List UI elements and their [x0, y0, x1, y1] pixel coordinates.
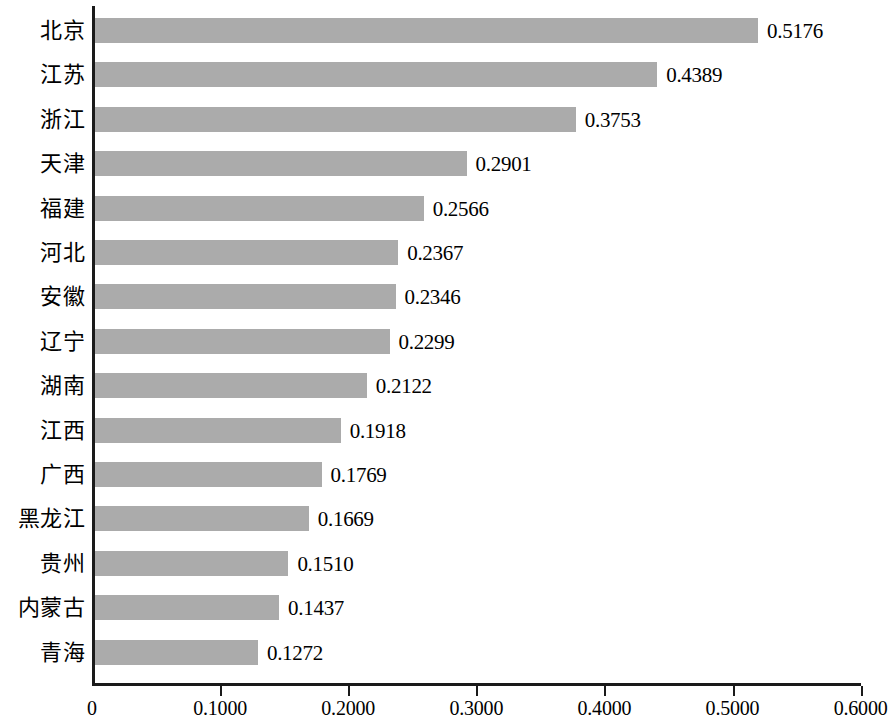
bar-row: 北京0.5176 — [0, 18, 891, 62]
bar — [95, 240, 398, 265]
category-label: 广西 — [0, 462, 85, 487]
bar-value-label: 0.1918 — [350, 419, 406, 443]
x-axis-tick-label: 0.6000 — [834, 697, 888, 719]
bar-row: 福建0.2566 — [0, 196, 891, 240]
bar-value-label: 0.2122 — [376, 374, 432, 398]
x-axis-tick-mark — [348, 686, 350, 696]
bar-row: 广西0.1769 — [0, 462, 891, 506]
bar-value-label: 0.1272 — [267, 641, 323, 665]
bar-row: 江西0.1918 — [0, 418, 891, 462]
category-label: 安徽 — [0, 284, 85, 309]
bar-value-label: 0.4389 — [666, 63, 722, 87]
bar-value-label: 0.2367 — [407, 241, 463, 265]
bar-row: 辽宁0.2299 — [0, 329, 891, 373]
bar — [95, 107, 576, 132]
bar-value-label: 0.1769 — [331, 463, 387, 487]
x-axis-tick-label: 0.4000 — [577, 697, 631, 719]
bar-chart: 北京0.5176江苏0.4389浙江0.3753天津0.2901福建0.2566… — [0, 0, 891, 723]
category-label: 辽宁 — [0, 329, 85, 354]
bar — [95, 551, 288, 576]
bar-value-label: 0.1669 — [318, 507, 374, 531]
x-axis-tick-label: 0.1000 — [193, 697, 247, 719]
bar — [95, 462, 322, 487]
bar-row: 江苏0.4389 — [0, 62, 891, 106]
bar-row: 贵州0.1510 — [0, 551, 891, 595]
category-label: 江苏 — [0, 62, 85, 87]
bar-row: 黑龙江0.1669 — [0, 506, 891, 550]
bar-value-label: 0.2566 — [433, 197, 489, 221]
bar — [95, 18, 758, 43]
bar-row: 青海0.1272 — [0, 640, 891, 684]
bar-value-label: 0.1437 — [288, 596, 344, 620]
x-axis-tick-mark — [733, 686, 735, 696]
bar-value-label: 0.2901 — [476, 152, 532, 176]
x-axis-tick-label: 0.3000 — [449, 697, 503, 719]
bar-value-label: 0.2299 — [399, 330, 455, 354]
category-label: 江西 — [0, 418, 85, 443]
x-axis-tick-mark — [604, 686, 606, 696]
bar-value-label: 0.3753 — [585, 108, 641, 132]
bar — [95, 196, 424, 221]
bar — [95, 151, 467, 176]
category-label: 河北 — [0, 240, 85, 265]
category-label: 贵州 — [0, 551, 85, 576]
bar-row: 安徽0.2346 — [0, 284, 891, 328]
category-label: 福建 — [0, 196, 85, 221]
category-label: 天津 — [0, 151, 85, 176]
x-axis-tick-mark — [861, 686, 863, 696]
bar-row: 河北0.2367 — [0, 240, 891, 284]
bar — [95, 418, 341, 443]
x-axis-tick-mark — [220, 686, 222, 696]
bar — [95, 640, 258, 665]
x-axis-tick-label: 0 — [87, 697, 97, 719]
x-axis-tick-label: 0.2000 — [321, 697, 375, 719]
category-label: 浙江 — [0, 107, 85, 132]
bar-row: 内蒙古0.1437 — [0, 595, 891, 639]
bar-value-label: 0.5176 — [767, 19, 823, 43]
bar — [95, 329, 390, 354]
bar — [95, 284, 396, 309]
plot-area: 北京0.5176江苏0.4389浙江0.3753天津0.2901福建0.2566… — [0, 0, 891, 723]
x-axis-tick-label: 0.5000 — [706, 697, 760, 719]
bar — [95, 506, 309, 531]
category-label: 青海 — [0, 640, 85, 665]
bar — [95, 373, 367, 398]
bar-row: 浙江0.3753 — [0, 107, 891, 151]
category-label: 内蒙古 — [0, 595, 85, 620]
bar-row: 天津0.2901 — [0, 151, 891, 195]
x-axis-tick-mark — [476, 686, 478, 696]
bar — [95, 595, 279, 620]
bar-row: 湖南0.2122 — [0, 373, 891, 417]
category-label: 北京 — [0, 18, 85, 43]
category-label: 黑龙江 — [0, 506, 85, 531]
bar — [95, 62, 657, 87]
category-label: 湖南 — [0, 373, 85, 398]
bar-value-label: 0.1510 — [297, 552, 353, 576]
bar-value-label: 0.2346 — [405, 285, 461, 309]
